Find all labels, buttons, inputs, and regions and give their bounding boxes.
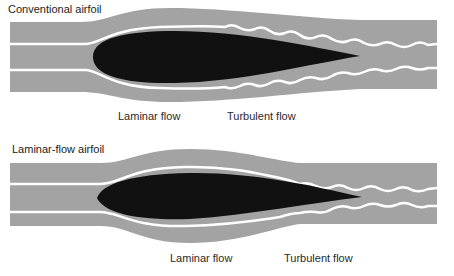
laminar-flow-label: Laminar flow [118,110,180,122]
turbulent-flow-label: Turbulent flow [284,252,353,264]
turbulent-flow-label: Turbulent flow [227,110,296,122]
conventional-airfoil-diagram [10,8,437,102]
laminar-flow-label: Laminar flow [170,252,232,264]
laminar-flow-airfoil-diagram [10,149,437,243]
diagram-title-laminar-flow: Laminar-flow airfoil [12,143,104,155]
diagram-title-conventional: Conventional airfoil [8,3,102,15]
airfoil-diagram [0,0,454,276]
